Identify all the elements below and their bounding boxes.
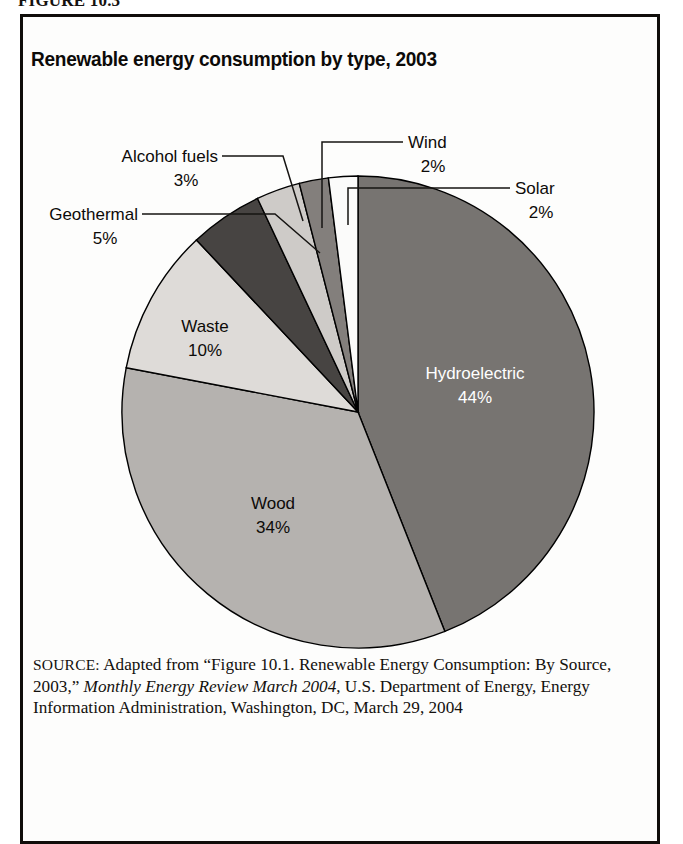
callout-label-wind-percent: 2% — [421, 157, 446, 176]
callout-label-geothermal-name: Geothermal — [49, 205, 138, 224]
slice-label-hydroelectric-percent: 44% — [458, 388, 492, 407]
source-label: SOURCE: — [33, 656, 100, 673]
slice-label-wood-name: Wood — [251, 494, 295, 513]
slice-label-wood-percent: 34% — [256, 518, 290, 537]
pie-slices — [122, 176, 594, 648]
callout-label-solar-percent: 2% — [529, 203, 554, 222]
source-note: SOURCE: Adapted from “Figure 10.1. Renew… — [33, 654, 633, 719]
source-italic-title: Monthly Energy Review March 2004 — [84, 677, 337, 696]
slice-label-waste-name: Waste — [181, 317, 229, 336]
callout-label-geothermal-percent: 5% — [93, 229, 118, 248]
callout-label-alcohol-fuels-name: Alcohol fuels — [122, 147, 218, 166]
callout-label-wind-name: Wind — [408, 133, 447, 152]
callout-label-alcohol-fuels-percent: 3% — [174, 171, 199, 190]
slice-label-hydroelectric-name: Hydroelectric — [425, 364, 525, 383]
callout-label-solar-name: Solar — [515, 179, 555, 198]
slice-label-waste-percent: 10% — [188, 341, 222, 360]
